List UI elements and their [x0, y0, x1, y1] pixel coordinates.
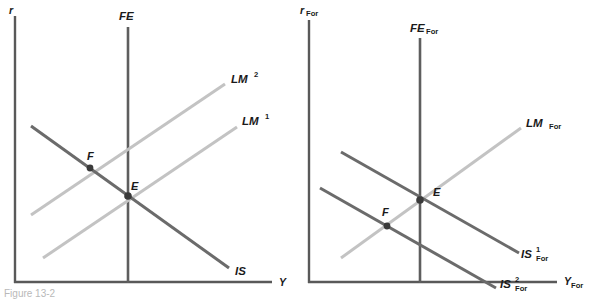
figure-caption-strip: Figure 13-2: [0, 288, 611, 299]
foreign-fe-label: FE For: [410, 22, 438, 36]
svg-text:1: 1: [265, 112, 270, 121]
domestic-point-e-label: E: [131, 180, 139, 192]
domestic-lm1-label: LM 1: [242, 112, 270, 127]
svg-text:LM: LM: [231, 73, 248, 85]
foreign-point-f: [384, 223, 391, 230]
figure-root: r Y FE LM 2 LM 1 IS F E: [0, 0, 611, 299]
svg-text:For: For: [306, 9, 318, 18]
svg-text:2: 2: [515, 275, 519, 284]
svg-text:1: 1: [536, 245, 541, 254]
svg-text:FE: FE: [410, 22, 425, 34]
svg-text:For: For: [536, 254, 548, 263]
foreign-y-axis-label: r For: [300, 4, 318, 18]
svg-text:LM: LM: [526, 117, 543, 129]
foreign-point-f-label: F: [382, 206, 389, 218]
domestic-point-f: [87, 165, 94, 172]
domestic-x-axis-label: Y: [279, 276, 287, 288]
domestic-is-label: IS: [235, 265, 246, 277]
figure-caption: Figure 13-2: [0, 288, 611, 299]
foreign-is2-curve: [320, 188, 496, 288]
domestic-economy-diagram: r Y FE LM 2 LM 1 IS F E: [0, 0, 300, 299]
domestic-lm2-label: LM 2: [231, 70, 258, 85]
svg-text:For: For: [549, 122, 561, 131]
foreign-lm-label: LM For: [526, 117, 561, 131]
foreign-point-e-label: E: [433, 186, 441, 198]
svg-text:For: For: [426, 27, 438, 36]
domestic-fe-label: FE: [119, 10, 134, 22]
domestic-point-f-label: F: [87, 150, 94, 162]
domestic-lm1-curve: [43, 127, 237, 258]
foreign-economy-diagram: r For Y For FE For LM For IS 1 For IS 2 …: [292, 0, 611, 299]
domestic-y-axis-label: r: [9, 4, 14, 16]
svg-text:2: 2: [254, 70, 258, 79]
svg-text:r: r: [300, 4, 305, 16]
domestic-point-e: [124, 192, 132, 200]
svg-text:LM: LM: [242, 115, 259, 127]
svg-text:IS: IS: [521, 248, 532, 260]
foreign-point-e: [416, 196, 424, 204]
foreign-is1-label: IS 1 For: [521, 245, 548, 263]
